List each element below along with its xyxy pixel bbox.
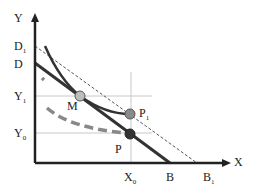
tick-y0: Y0	[14, 127, 26, 142]
x-axis-label: X	[234, 156, 243, 168]
tick-b: B	[166, 171, 174, 183]
x-axis-arrow-icon	[222, 159, 231, 167]
tick-d: D	[14, 58, 23, 70]
tick-x0: X0	[124, 171, 136, 186]
budget-line-d-b	[35, 63, 170, 163]
y-axis-label: Y	[14, 12, 23, 24]
diagram: Y X D1 D Y1 Y0 X0 B B1 M P1 P	[0, 0, 265, 195]
tick-b1: B1	[203, 171, 215, 186]
tick-d1: D1	[14, 40, 26, 55]
dashed-curve	[42, 78, 126, 133]
label-p1: P1	[139, 107, 149, 122]
point-p1	[125, 109, 135, 119]
y-axis-arrow-icon	[31, 13, 39, 22]
label-p: P	[115, 143, 122, 155]
tick-y1: Y1	[14, 90, 26, 105]
point-p	[125, 129, 135, 139]
label-m: M	[67, 100, 78, 112]
diagram-canvas	[0, 0, 265, 195]
